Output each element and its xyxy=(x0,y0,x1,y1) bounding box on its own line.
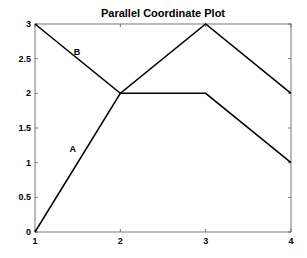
series-line-a xyxy=(35,93,291,232)
parallel-coordinate-chart: Parallel Coordinate Plot 00.511.522.53 1… xyxy=(0,0,307,258)
y-tick-label: 1 xyxy=(26,158,31,168)
x-tick-label: 1 xyxy=(32,236,37,246)
y-tick-label: 1.5 xyxy=(18,123,31,133)
annotations: AB xyxy=(69,47,80,154)
y-tick-label: 2 xyxy=(26,88,31,98)
series-line-b xyxy=(35,24,291,93)
series-label: B xyxy=(74,47,81,57)
x-tick-label: 2 xyxy=(118,236,123,246)
x-tick-label: 4 xyxy=(288,236,293,246)
x-axis: 1234 xyxy=(32,24,293,246)
y-axis: 00.511.522.53 xyxy=(18,19,291,237)
y-tick-label: 0 xyxy=(26,227,31,237)
y-tick-label: 3 xyxy=(26,19,31,29)
y-tick-label: 2.5 xyxy=(18,54,31,64)
x-tick-label: 3 xyxy=(203,236,208,246)
y-tick-label: 0.5 xyxy=(18,192,31,202)
series-label: A xyxy=(69,144,76,154)
chart-title: Parallel Coordinate Plot xyxy=(101,7,225,19)
